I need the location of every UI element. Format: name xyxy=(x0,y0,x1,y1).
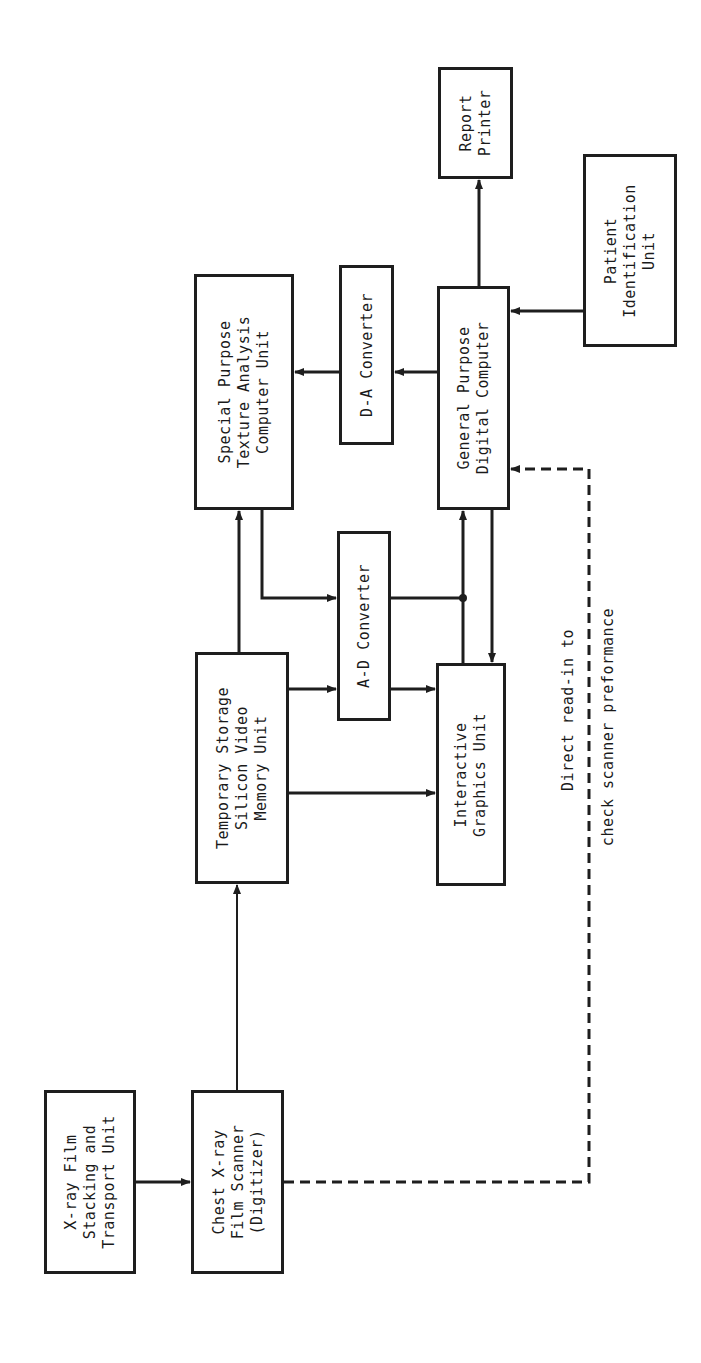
box-report-printer: Report Printer xyxy=(438,67,513,179)
box-general-purpose-computer: General Purpose Digital Computer xyxy=(437,286,510,510)
junction-dot xyxy=(459,594,467,602)
box-label: X-ray Film Stacking and Transport Unit xyxy=(62,1115,119,1248)
box-temporary-storage: Temporary Storage Silicon Video Memory U… xyxy=(195,652,289,884)
arrow-texture-to-ad xyxy=(262,509,336,598)
box-label: Report Printer xyxy=(457,90,495,157)
box-label: A-D Converter xyxy=(355,564,374,688)
box-ad-converter: A-D Converter xyxy=(337,531,391,721)
box-patient-identification: Patient Identification Unit xyxy=(583,154,677,347)
box-chest-xray-scanner: Chest X-ray Film Scanner (Digitizer) xyxy=(191,1090,284,1274)
annotation-line-2: check scanner preformance xyxy=(599,608,617,846)
annotation-line-1: Direct read-in to xyxy=(559,629,577,791)
box-label: Temporary Storage Silicon Video Memory U… xyxy=(214,687,271,849)
box-label: Interactive Graphics Unit xyxy=(452,713,490,837)
box-label: Chest X-ray Film Scanner (Digitizer) xyxy=(209,1125,266,1239)
box-label: General Purpose Digital Computer xyxy=(455,322,493,475)
box-xray-film-stacking: X-ray Film Stacking and Transport Unit xyxy=(44,1090,136,1274)
box-da-converter: D-A Converter xyxy=(339,265,394,445)
box-label: D-A Converter xyxy=(357,293,376,417)
box-interactive-graphics: Interactive Graphics Unit xyxy=(436,663,506,886)
box-label: Patient Identification Unit xyxy=(602,184,659,317)
box-texture-analysis: Special Purpose Texture Analysis Compute… xyxy=(194,274,294,510)
box-label: Special Purpose Texture Analysis Compute… xyxy=(216,316,273,469)
